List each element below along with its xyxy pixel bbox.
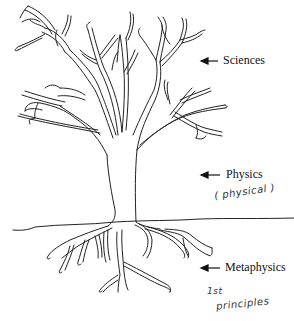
root (47, 226, 108, 259)
label-sciences: Sciences (223, 53, 265, 68)
label-metaphysics: Metaphysics (225, 260, 286, 275)
tree-diagram: Sciences Physics ( physical ) Metaphysic… (0, 0, 294, 321)
label-physics: Physics (226, 167, 263, 182)
trunk-right (135, 150, 160, 229)
trunk-left (107, 155, 115, 226)
annotation-first-sup: 1st (207, 286, 222, 296)
